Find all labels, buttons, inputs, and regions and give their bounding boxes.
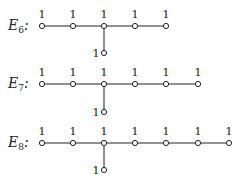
branch-label: 1	[93, 164, 100, 177]
node-label: 1	[70, 8, 77, 21]
branch-node	[101, 109, 106, 114]
node-label: 1	[70, 125, 77, 138]
node-label: 1	[132, 125, 139, 138]
node	[101, 140, 106, 145]
node	[70, 23, 75, 28]
node-label: 1	[39, 66, 46, 79]
branch-label: 1	[93, 47, 100, 60]
node-label: 1	[163, 66, 170, 79]
node	[226, 140, 231, 145]
diagram-title: E8:	[7, 134, 29, 152]
node-label: 1	[39, 125, 46, 138]
diagram-title: E6:	[7, 17, 29, 35]
node-label: 1	[39, 8, 46, 21]
node	[101, 81, 106, 86]
node-label: 1	[101, 125, 108, 138]
node	[101, 23, 106, 28]
node	[70, 81, 75, 86]
dynkin-diagrams: E6: 1 1 1 1 1 1 E7: 1 1	[0, 0, 243, 183]
node-label: 1	[70, 66, 77, 79]
node	[163, 140, 168, 145]
node	[195, 81, 200, 86]
branch-node	[101, 167, 106, 172]
node-label: 1	[101, 66, 108, 79]
node	[195, 140, 200, 145]
node	[70, 140, 75, 145]
node-label: 1	[132, 8, 139, 21]
node	[39, 81, 44, 86]
node-label: 1	[195, 66, 202, 79]
diagram-e6: E6: 1 1 1 1 1 1	[7, 8, 170, 60]
node-label: 1	[101, 8, 108, 21]
diagram-title: E7:	[7, 75, 29, 93]
node-label: 1	[195, 125, 202, 138]
branch-node	[101, 50, 106, 55]
node	[163, 81, 168, 86]
node-label: 1	[163, 8, 170, 21]
node	[39, 140, 44, 145]
node	[39, 23, 44, 28]
node-label: 1	[163, 125, 170, 138]
node	[132, 81, 137, 86]
diagram-e8: E8: 1 1 1 1 1 1 1 1	[7, 125, 233, 177]
branch-label: 1	[93, 106, 100, 119]
node-label: 1	[226, 125, 233, 138]
node	[132, 140, 137, 145]
node	[163, 23, 168, 28]
diagram-e7: E7: 1 1 1 1 1 1 1	[7, 66, 202, 119]
node-label: 1	[132, 66, 139, 79]
node	[132, 23, 137, 28]
